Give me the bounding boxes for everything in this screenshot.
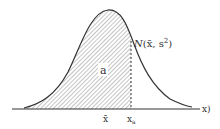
distribution-label: N(x̄, s2) — [133, 37, 172, 49]
axis-label: x) — [202, 104, 211, 114]
threshold-tick-sub: a — [132, 118, 136, 125]
mean-tick-label: x̄ — [103, 114, 108, 124]
area-label: a — [100, 64, 107, 77]
distribution-label-close: ) — [168, 38, 172, 49]
threshold-tick-label: xa — [127, 114, 136, 125]
distribution-label-args: (x̄, s — [143, 38, 164, 49]
shaded-area — [24, 10, 192, 109]
normal-distribution-diagram: a N(x̄, s2) x̄ xa x) — [0, 0, 220, 129]
